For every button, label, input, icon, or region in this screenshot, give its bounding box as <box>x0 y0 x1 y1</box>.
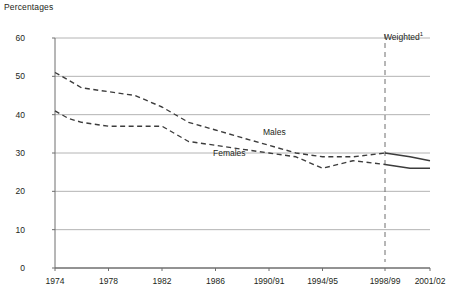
x-tick-label: 1994/95 <box>307 276 338 286</box>
series-line-males-weighted <box>385 153 430 161</box>
x-tick-label: 1990/91 <box>254 276 285 286</box>
x-tick-label: 1974 <box>46 276 65 286</box>
series-label-females: Females <box>213 148 246 158</box>
weighted-text: Weighted <box>384 32 420 42</box>
weighted-footnote-marker: 1 <box>420 31 423 37</box>
x-tick-label: 1982 <box>153 276 172 286</box>
x-tick-label: 1978 <box>99 276 118 286</box>
weighted-annotation-label: Weighted1 <box>384 31 423 42</box>
x-tick-label: 2001/02 <box>415 276 446 286</box>
series-line-females-weighted <box>385 165 430 169</box>
series-label-males: Males <box>263 127 286 137</box>
x-tick-label: 1986 <box>206 276 225 286</box>
line-chart: Percentages 0102030405060 Males Females … <box>0 0 451 297</box>
series-line-females-unweighted <box>55 111 385 169</box>
x-tick-label: 1998/99 <box>370 276 401 286</box>
